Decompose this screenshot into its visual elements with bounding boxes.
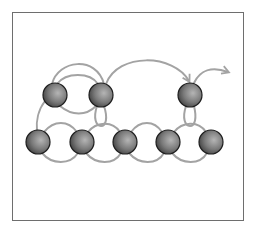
bead-upper-1 <box>43 83 67 107</box>
bead-lower-5 <box>199 130 223 154</box>
beading-diagram <box>0 0 258 239</box>
bead-lower-3 <box>113 130 137 154</box>
diagram-frame <box>13 13 244 221</box>
bead-upper-2 <box>89 83 113 107</box>
diagram-canvas <box>0 0 258 239</box>
bead-lower-2 <box>70 130 94 154</box>
bead-lower-1 <box>26 130 50 154</box>
bead-upper-3 <box>178 83 202 107</box>
bead-lower-4 <box>156 130 180 154</box>
